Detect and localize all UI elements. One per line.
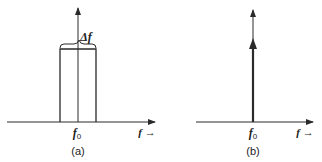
subscript: 0	[77, 132, 81, 141]
panel-a-graphic	[7, 8, 155, 122]
panel-b-impulse-arrowhead	[249, 38, 257, 49]
subscript: 0	[253, 132, 257, 141]
panel-b-axis-label: f →	[296, 126, 313, 138]
panel-b-caption: (b)	[246, 145, 259, 157]
bandwidth-label: Δf	[80, 31, 92, 43]
panel-b-graphic	[196, 10, 313, 122]
panel-a-axis-label: f →	[138, 126, 155, 138]
panel-a-caption: (a)	[71, 145, 84, 157]
panel-b-center-frequency-label: f0	[249, 127, 257, 143]
diagram-canvas	[0, 0, 322, 162]
panel-a-center-frequency-label: f0	[73, 127, 81, 143]
